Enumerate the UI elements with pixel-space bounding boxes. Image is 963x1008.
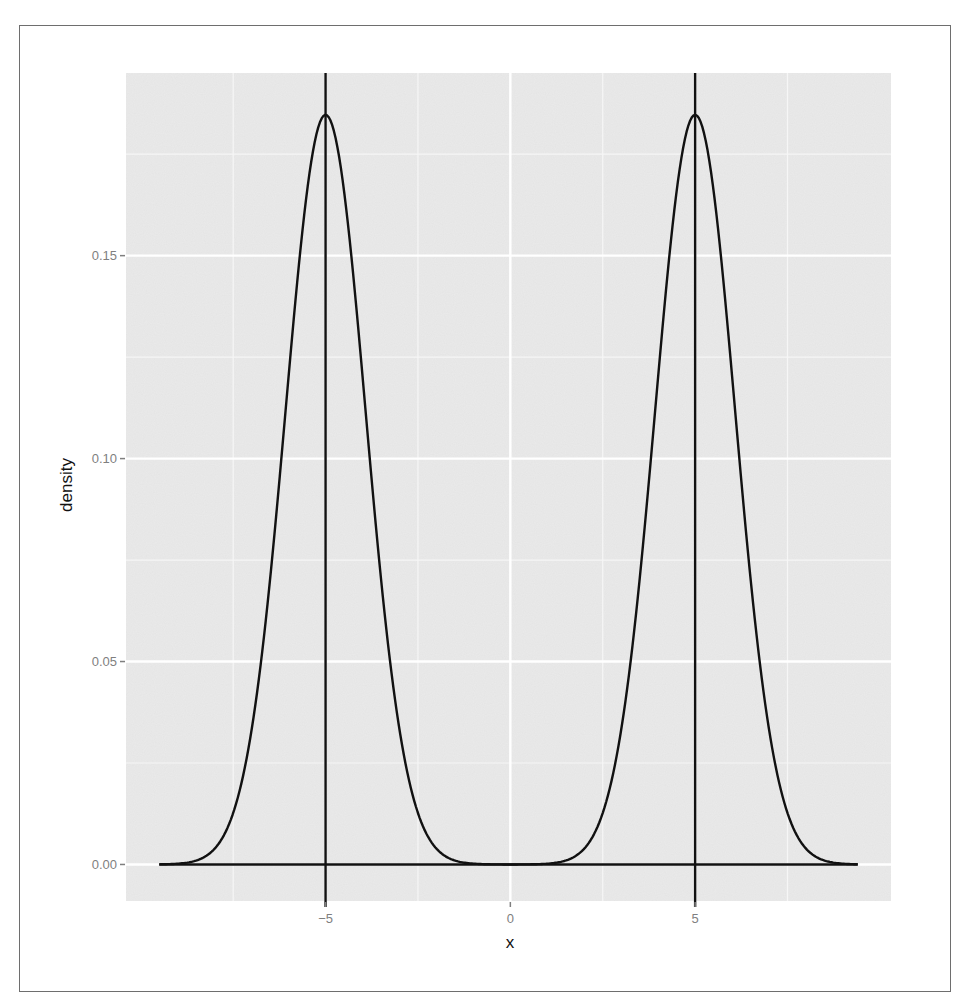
density-chart: 0.000.050.100.15 −505 x density bbox=[0, 0, 963, 1008]
y-axis: 0.000.050.100.15 bbox=[92, 248, 125, 872]
y-tick-label: 0.10 bbox=[92, 451, 117, 466]
plot-panel bbox=[126, 73, 891, 907]
x-axis: −505 bbox=[318, 902, 699, 926]
x-tick-label: 5 bbox=[692, 911, 699, 926]
y-tick-label: 0.05 bbox=[92, 654, 117, 669]
x-tick-label: 0 bbox=[507, 911, 514, 926]
y-tick-label: 0.00 bbox=[92, 857, 117, 872]
y-axis-title: density bbox=[57, 458, 76, 512]
y-tick-label: 0.15 bbox=[92, 248, 117, 263]
x-axis-title: x bbox=[506, 933, 515, 952]
x-tick-label: −5 bbox=[318, 911, 333, 926]
panel-texture bbox=[126, 73, 891, 901]
